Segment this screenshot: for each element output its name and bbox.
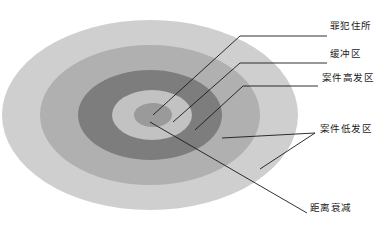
zone-ellipses xyxy=(2,20,298,210)
diagram-canvas: 罪犯住所 缓冲区 案件高发区 案件低发区 距离衰减 xyxy=(0,0,389,229)
concentric-zone-svg xyxy=(0,0,389,229)
label-buffer-zone: 缓冲区 xyxy=(330,49,361,59)
label-offender-residence: 罪犯住所 xyxy=(330,21,372,31)
label-low-crime-zone: 案件低发区 xyxy=(320,124,372,134)
label-high-crime-zone: 案件高发区 xyxy=(322,73,374,83)
label-distance-decay: 距离衰减 xyxy=(310,203,352,213)
